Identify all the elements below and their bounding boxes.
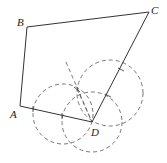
quadrilateral: [20, 12, 149, 122]
label-d: D: [90, 126, 99, 138]
construction-line: [66, 62, 92, 122]
construction-circle-3: [77, 60, 143, 126]
label-b: B: [17, 16, 24, 28]
geometry-figure: A B C D: [0, 0, 167, 163]
label-a: A: [9, 108, 17, 120]
construction-line-2: [77, 89, 92, 122]
side-ab-bc: [20, 12, 149, 122]
tick-marks: [33, 68, 124, 119]
label-c: C: [151, 4, 159, 16]
construction-circles: [33, 60, 143, 152]
